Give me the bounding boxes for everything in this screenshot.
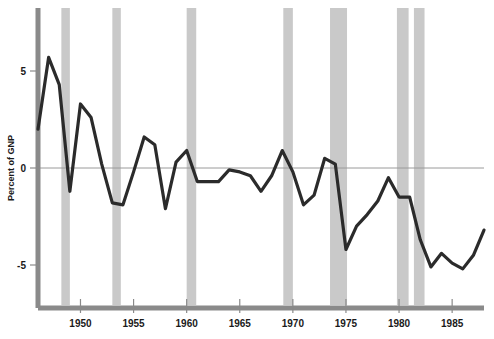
x-axis-tick-label: 1980 [388,318,411,329]
y-axis-title: Percent of GNP [6,135,16,201]
x-axis-tick-label: 1960 [176,318,199,329]
x-axis-tick-label: 1985 [441,318,464,329]
recession-band [112,8,120,305]
y-axis-tick-label: 5 [20,66,26,77]
y-axis-tick-label: 0 [20,163,26,174]
x-axis-tick-label: 1950 [69,318,92,329]
recession-band [330,8,347,305]
chart-container: 50-5 19501955196019651970197519801985 Pe… [0,0,494,339]
recession-band [414,8,425,305]
gnp-line-chart: 50-5 19501955196019651970197519801985 Pe… [0,0,494,339]
x-axis-tick-label: 1970 [282,318,305,329]
y-axis-title-label: Percent of GNP [6,135,16,201]
recession-band [397,8,409,305]
x-axis-tick-label: 1965 [229,318,252,329]
x-axis-tick-label: 1975 [335,318,358,329]
x-axis-tick-label: 1955 [122,318,145,329]
y-axis-tick-label: -5 [17,260,26,271]
